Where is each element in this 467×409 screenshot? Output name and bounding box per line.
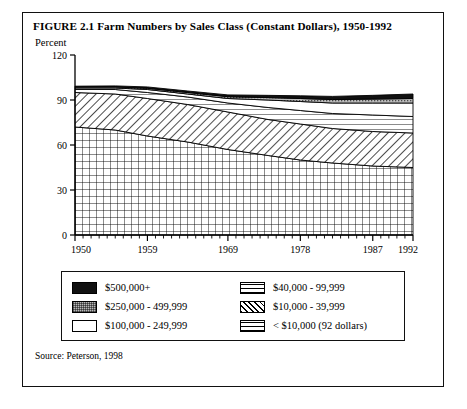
tick-label: 1978 xyxy=(290,244,310,255)
legend-swatch-under-10000 xyxy=(240,320,265,332)
legend-item: $40,000 - 99,999 xyxy=(240,278,367,297)
figure-title: FIGURE 2.1 Farm Numbers by Sales Class (… xyxy=(33,20,392,32)
tick-label: 0 xyxy=(62,230,67,241)
legend-swatch-250000-499999 xyxy=(72,301,97,313)
legend-swatch-40000-99999 xyxy=(240,282,265,294)
legend-item: $100,000 - 249,999 xyxy=(72,316,187,335)
legend-label: $10,000 - 39,999 xyxy=(273,301,345,312)
tick-label: 30 xyxy=(57,185,67,196)
tick-label: 60 xyxy=(57,140,67,151)
tick-label: 1950 xyxy=(71,244,91,255)
legend-swatch-10000-39999 xyxy=(240,301,265,313)
legend-label: $40,000 - 99,999 xyxy=(273,282,345,293)
legend-swatch-100000-249999 xyxy=(72,320,97,332)
chart-legend: $500,000+ $250,000 - 499,999 $100,000 - … xyxy=(61,271,405,341)
tick-label: 120 xyxy=(52,50,67,61)
tick-label: 90 xyxy=(57,95,67,106)
y-axis-label: Percent xyxy=(35,37,67,48)
legend-column-right: $40,000 - 99,999 $10,000 - 39,999 < $10,… xyxy=(240,278,367,335)
stacked-area-chart: 0306090120195019591969197819871992 xyxy=(47,49,419,257)
legend-column-left: $500,000+ $250,000 - 499,999 $100,000 - … xyxy=(72,278,187,335)
tick-label: 1987 xyxy=(363,244,383,255)
tick-label: 1992 xyxy=(398,244,418,255)
legend-item: $250,000 - 499,999 xyxy=(72,297,187,316)
legend-swatch-500000-plus xyxy=(72,282,97,294)
legend-label: < $10,000 (92 dollars) xyxy=(273,320,367,331)
legend-label: $500,000+ xyxy=(105,282,150,293)
legend-label: $250,000 - 499,999 xyxy=(105,301,187,312)
tick-label: 1969 xyxy=(218,244,238,255)
source-note: Source: Peterson, 1998 xyxy=(35,351,123,361)
figure-container: FIGURE 2.1 Farm Numbers by Sales Class (… xyxy=(22,12,444,387)
chart-plot-area: 0306090120195019591969197819871992 xyxy=(47,49,419,257)
legend-item: $500,000+ xyxy=(72,278,187,297)
legend-item: < $10,000 (92 dollars) xyxy=(240,316,367,335)
chart-series-layers xyxy=(75,86,413,235)
legend-item: $10,000 - 39,999 xyxy=(240,297,367,316)
legend-label: $100,000 - 249,999 xyxy=(105,320,187,331)
tick-label: 1959 xyxy=(137,244,157,255)
